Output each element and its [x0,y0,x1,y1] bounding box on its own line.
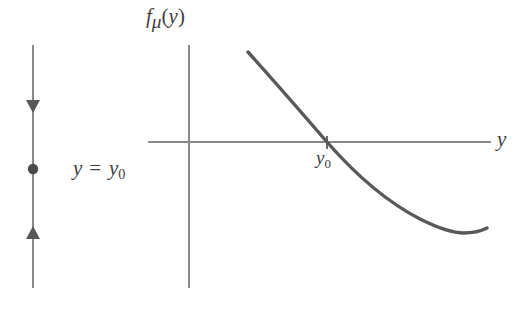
arrow-down-icon [26,100,40,113]
fixed-point-marker [28,164,38,174]
equilibrium-label: y=y0 [73,158,125,181]
vertical-axis-label-close-paren: ) [178,4,185,28]
root-label-subscript: 0 [324,156,330,171]
equilibrium-label-equals: = [89,156,102,180]
root-label: y0 [316,148,331,171]
figure-phase-line-and-graph: fμ(y) y y0 y=y0 [0,0,527,313]
vertical-axis-label-arg: y [169,4,178,28]
vertical-axis-label-open-paren: ( [162,4,169,28]
equilibrium-label-value-subscript: 0 [118,166,125,182]
vertical-axis-label: fμ(y) [146,6,185,32]
equilibrium-label-variable: y [73,156,82,180]
horizontal-axis-label: y [497,129,506,150]
phase-line-group [26,45,40,288]
arrow-up-icon [26,226,40,239]
equilibrium-label-value: y [109,156,118,180]
vertical-axis-label-mu: μ [152,11,162,32]
